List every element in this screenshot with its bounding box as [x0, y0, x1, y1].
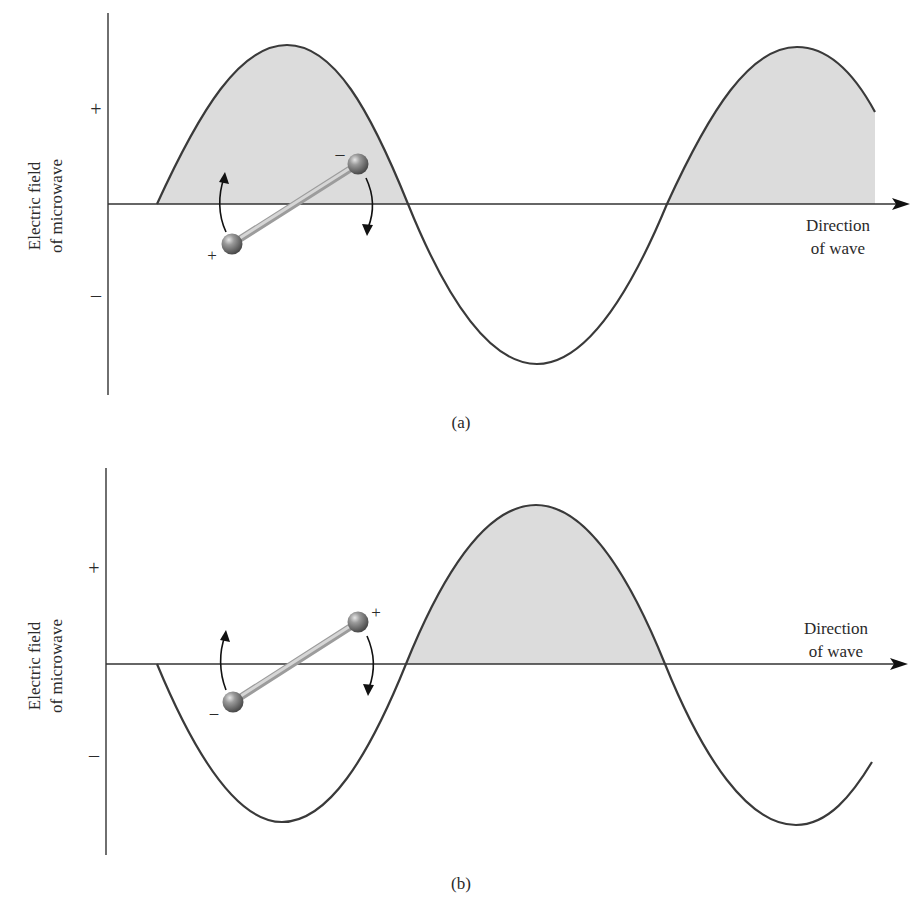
- atom-negative: [223, 692, 244, 713]
- atom-negative: [348, 154, 369, 175]
- y-axis-label-line1: Electric field: [25, 621, 44, 710]
- rotation-arrow-up-icon: [221, 636, 226, 690]
- atom-right-charge: –: [335, 144, 346, 164]
- y-plus-label: +: [88, 557, 99, 579]
- atom-left-charge: +: [207, 246, 217, 265]
- atom-positive: [348, 612, 369, 633]
- y-axis-label-line2: of microwave: [47, 159, 66, 253]
- x-axis-label-line1: Direction: [806, 216, 871, 235]
- rotation-arrow-down-icon: [367, 636, 373, 688]
- atom-left-charge: –: [209, 703, 219, 722]
- y-plus-label: +: [90, 98, 101, 120]
- x-axis-label-line2: of wave: [809, 642, 863, 661]
- panel-a: + – Electric field of microwave Directio…: [25, 13, 910, 432]
- positive-field-region-1: [157, 45, 408, 204]
- dipole-molecule: – +: [209, 603, 381, 722]
- positive-field-region-2: [667, 47, 875, 204]
- y-axis-label-line2: of microwave: [47, 619, 66, 713]
- x-axis-label-line2: of wave: [811, 239, 865, 258]
- atom-positive: [222, 234, 243, 255]
- y-axis-label-line1: Electric field: [25, 161, 44, 250]
- caption-a: (a): [452, 413, 471, 432]
- y-minus-label: –: [88, 744, 100, 766]
- caption-b: (b): [451, 874, 471, 893]
- panel-b: + – Electric field of microwave Directio…: [25, 468, 908, 893]
- x-axis-label-line1: Direction: [804, 619, 869, 638]
- atom-right-charge: +: [371, 603, 381, 622]
- y-minus-label: –: [90, 284, 102, 306]
- microwave-dipole-diagram: + – Electric field of microwave Directio…: [0, 0, 922, 903]
